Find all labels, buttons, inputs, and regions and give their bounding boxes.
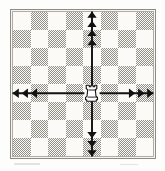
board-square <box>83 138 101 156</box>
board-square <box>101 84 119 102</box>
chessboard <box>13 12 153 156</box>
board-square <box>31 102 49 120</box>
board-square <box>66 120 84 138</box>
board-square <box>48 12 66 30</box>
board-square <box>83 30 101 48</box>
board-square <box>101 48 119 66</box>
board-square <box>48 48 66 66</box>
board-square <box>83 120 101 138</box>
board-square <box>136 48 154 66</box>
board-square <box>31 120 49 138</box>
board-square <box>13 30 31 48</box>
board-square <box>48 66 66 84</box>
board-square <box>48 120 66 138</box>
board-square <box>31 66 49 84</box>
board-square <box>13 66 31 84</box>
board-square <box>48 138 66 156</box>
board-square <box>48 84 66 102</box>
board-square <box>136 12 154 30</box>
board-square <box>66 84 84 102</box>
board-square <box>66 66 84 84</box>
board-square <box>13 102 31 120</box>
board-square <box>101 66 119 84</box>
board-square <box>118 66 136 84</box>
board-square <box>48 30 66 48</box>
board-square <box>31 48 49 66</box>
board-square <box>48 102 66 120</box>
board-square <box>101 12 119 30</box>
board-square <box>31 138 49 156</box>
board-square <box>136 138 154 156</box>
board-frame <box>10 9 156 159</box>
board-square <box>118 30 136 48</box>
board-square <box>66 138 84 156</box>
board-square <box>83 66 101 84</box>
board-square <box>118 12 136 30</box>
board-square <box>66 48 84 66</box>
board-square <box>31 12 49 30</box>
board-square <box>83 84 101 102</box>
board-square <box>118 84 136 102</box>
scan-speckle <box>14 163 40 165</box>
board-square <box>66 12 84 30</box>
board-square <box>101 102 119 120</box>
board-square <box>118 138 136 156</box>
board-square <box>136 84 154 102</box>
scan-speckle <box>120 164 138 165</box>
board-square <box>118 48 136 66</box>
board-square <box>13 138 31 156</box>
board-square <box>13 12 31 30</box>
board-square <box>118 120 136 138</box>
board-square <box>66 30 84 48</box>
board-square <box>101 120 119 138</box>
rook-movement-diagram <box>0 0 165 171</box>
board-square <box>83 48 101 66</box>
board-square <box>101 30 119 48</box>
board-square <box>31 84 49 102</box>
board-square <box>136 102 154 120</box>
board-square <box>118 102 136 120</box>
board-square <box>66 102 84 120</box>
board-square <box>13 48 31 66</box>
board-square <box>101 138 119 156</box>
board-square <box>136 120 154 138</box>
board-square <box>31 30 49 48</box>
board-square <box>13 84 31 102</box>
board-square <box>13 120 31 138</box>
board-square <box>136 66 154 84</box>
board-square <box>136 30 154 48</box>
board-square <box>83 12 101 30</box>
board-square <box>83 102 101 120</box>
